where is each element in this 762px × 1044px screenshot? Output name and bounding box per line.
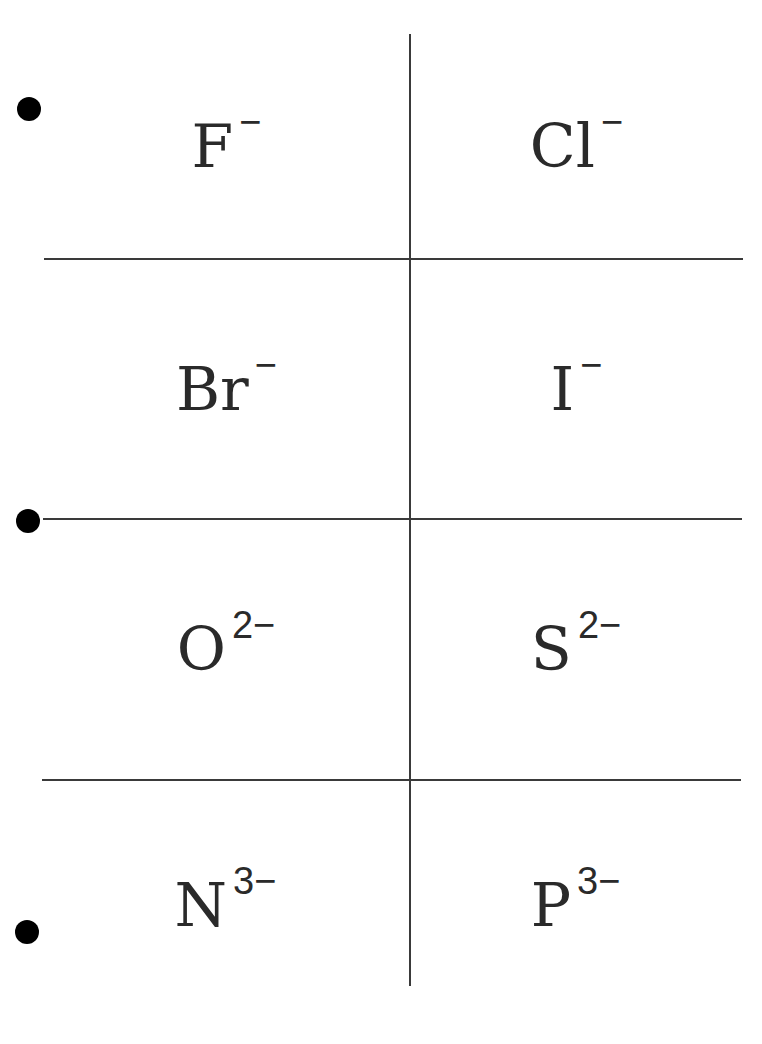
card-fluoride: F−	[44, 34, 409, 258]
binder-hole	[15, 920, 39, 944]
binder-hole	[17, 97, 41, 121]
ion-label: I−	[551, 359, 603, 419]
card-sulfide: S2−	[410, 519, 742, 779]
card-bromide: Br−	[44, 259, 409, 518]
ion-charge: 2−	[578, 604, 621, 646]
card-iodide: I−	[410, 259, 743, 518]
element-symbol: Br	[176, 354, 249, 424]
ion-charge: −	[580, 344, 602, 386]
ion-label: O2−	[177, 619, 276, 679]
card-phosphide: P3−	[410, 780, 741, 1030]
binder-hole	[16, 509, 40, 533]
ion-label: P3−	[531, 875, 621, 935]
element-symbol: O	[177, 614, 226, 684]
ion-charge: 2−	[232, 604, 275, 646]
ion-label: Cl−	[530, 116, 623, 176]
ion-charge: −	[255, 344, 277, 386]
ion-label: N3−	[175, 875, 277, 935]
card-nitride: N3−	[42, 780, 409, 1030]
element-symbol: I	[551, 354, 575, 424]
ion-label: F−	[192, 116, 262, 176]
ion-charge: −	[601, 101, 623, 143]
card-chloride: Cl−	[410, 34, 743, 258]
ion-label: Br−	[176, 359, 277, 419]
element-symbol: Cl	[530, 111, 595, 181]
ion-charge: −	[239, 101, 261, 143]
ion-label: S2−	[531, 619, 621, 679]
card-oxide: O2−	[43, 519, 409, 779]
element-symbol: P	[531, 870, 571, 940]
element-symbol: F	[192, 111, 234, 181]
ion-charge: 3−	[577, 860, 620, 902]
element-symbol: N	[175, 870, 228, 940]
element-symbol: S	[531, 614, 572, 684]
ion-charge: 3−	[233, 860, 276, 902]
